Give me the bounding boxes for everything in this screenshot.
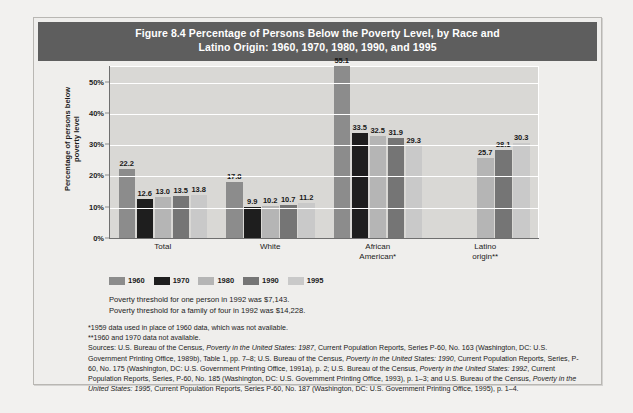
bar-value-label: 11.2: [299, 193, 313, 202]
bar-value-label: 29.3: [406, 136, 421, 145]
bar-group: 22.212.613.013.513.8: [119, 67, 208, 238]
x-category-label-line: origin**: [472, 252, 498, 262]
bar: 17.8: [226, 182, 243, 238]
bar: 29.3: [406, 146, 423, 238]
legend-item: 1990: [243, 276, 279, 285]
legend-item: 1995: [288, 276, 324, 285]
footnotes: *1959 data used in place of 1960 data, w…: [88, 323, 587, 394]
legend-item: 1960: [109, 276, 145, 285]
bar: 25.7: [477, 158, 494, 238]
sources-prefix: Sources: U.S. Bureau of the Census,: [88, 344, 206, 352]
bar-group: 25.728.130.3: [441, 67, 530, 238]
bar-value-label: 30.3: [514, 133, 529, 142]
bar: 9.9: [244, 207, 261, 238]
chart-legend: 19601970198019901995: [109, 276, 323, 285]
gridline: [109, 83, 538, 84]
gridline: [109, 114, 538, 115]
bar-value-label: 33.5: [352, 123, 367, 132]
y-tick-label: 40%: [89, 108, 104, 117]
y-tick-label: 30%: [89, 140, 104, 149]
legend-swatch: [109, 277, 125, 285]
bar: 10.7: [280, 205, 297, 238]
bar: 22.2: [119, 169, 136, 238]
x-category-label-line: Total: [154, 242, 171, 252]
legend-label: 1970: [173, 276, 190, 285]
source-rest-1995: , Current Population Reports, Series P-6…: [150, 385, 518, 393]
bar: 30.3: [513, 143, 530, 238]
x-category-label-line: White: [260, 242, 280, 252]
figure-title: Figure 8.4 Percentage of Persons Below t…: [38, 22, 597, 61]
bar-value-label: 13.8: [191, 185, 206, 194]
figure-page: Figure 8.4 Percentage of Persons Below t…: [0, 0, 633, 413]
gridline: [109, 176, 538, 177]
bar-value-label: 13.5: [173, 186, 188, 195]
bar-value-label: 25.7: [478, 148, 493, 157]
y-tick-label: 20%: [89, 171, 104, 180]
gridline: [109, 208, 538, 209]
legend-swatch: [243, 277, 259, 285]
y-tick-label: 10%: [89, 202, 104, 211]
threshold-notes: Poverty threshold for one person in 1992…: [109, 294, 305, 316]
bar: 32.5: [370, 136, 387, 238]
source-title-1990: Poverty in the United States: 1990: [346, 355, 454, 363]
y-tick-label: 50%: [89, 77, 104, 86]
x-axis-category-labels: TotalWhiteAfricanAmerican*Latinoorigin**: [109, 242, 539, 270]
figure-title-line-2: Latino Origin: 1960, 1970, 1980, 1990, a…: [38, 41, 597, 55]
bar: 33.5: [352, 133, 369, 238]
bar-value-label: 12.6: [137, 189, 152, 198]
bar-group: 55.133.532.531.929.3: [334, 67, 423, 238]
footnote-double-asterisk: **1960 and 1970 data not available.: [88, 333, 587, 343]
bar: 31.9: [388, 138, 405, 238]
bars-layer: 22.212.613.013.513.817.89.910.210.711.25…: [109, 67, 538, 238]
legend-swatch: [288, 277, 304, 285]
source-title-1992: Poverty in the United States: 1992: [420, 365, 528, 373]
bar-value-label: 10.2: [263, 196, 278, 205]
bar: 12.6: [137, 199, 154, 238]
threshold-one-person: Poverty threshold for one person in 1992…: [109, 294, 305, 305]
x-category-label: AfricanAmerican*: [359, 242, 396, 262]
legend-item: 1980: [198, 276, 234, 285]
y-axis-line: [109, 66, 110, 239]
legend-item: 1970: [154, 276, 190, 285]
bar: 28.1: [495, 150, 512, 238]
x-category-label: Total: [154, 242, 171, 252]
bar: 13.0: [155, 197, 172, 238]
x-category-label-line: American*: [359, 252, 396, 262]
y-axis-title-line-1: Percentage of persons below: [63, 74, 72, 204]
bar: 10.2: [262, 206, 279, 238]
bar-value-label: 31.9: [388, 128, 403, 137]
x-category-label-line: Latino: [472, 242, 498, 252]
y-axis-ticks: 0%10%20%30%40%50%: [73, 66, 109, 238]
chart-plot: Percentage of persons below poverty leve…: [51, 66, 587, 254]
gridline: [109, 145, 538, 146]
bar-group: 17.89.910.210.711.2: [226, 67, 315, 238]
figure-frame: Figure 8.4 Percentage of Persons Below t…: [33, 17, 602, 385]
bar-value-label: 13.0: [155, 187, 170, 196]
legend-swatch: [154, 277, 170, 285]
figure-title-line-1: Figure 8.4 Percentage of Persons Below t…: [38, 27, 597, 41]
bar-value-label: 10.7: [281, 195, 296, 204]
legend-label: 1960: [128, 276, 145, 285]
x-category-label: Latinoorigin**: [472, 242, 498, 262]
legend-label: 1980: [217, 276, 234, 285]
bar: 55.1: [334, 66, 351, 238]
bar: 13.5: [173, 196, 190, 238]
legend-label: 1995: [307, 276, 324, 285]
threshold-family-four: Poverty threshold for a family of four i…: [109, 305, 305, 316]
sources-note: Sources: U.S. Bureau of the Census, Pove…: [88, 343, 587, 394]
bar-value-label: 55.1: [334, 56, 349, 65]
y-tick-label: 0%: [93, 234, 104, 243]
bar: 13.8: [191, 195, 208, 238]
source-title-1987: Poverty in the United States: 1987: [206, 344, 314, 352]
bar-value-label: 9.9: [247, 197, 257, 206]
plot-area: 22.212.613.013.513.817.89.910.210.711.25…: [109, 66, 539, 238]
legend-swatch: [198, 277, 214, 285]
x-category-label-line: African: [359, 242, 396, 252]
x-category-label: White: [260, 242, 280, 252]
bar-value-label: 22.2: [119, 159, 134, 168]
x-axis-line: [109, 238, 539, 239]
legend-label: 1990: [262, 276, 279, 285]
bar-value-label: 32.5: [370, 126, 385, 135]
footnote-asterisk: *1959 data used in place of 1960 data, w…: [88, 323, 587, 333]
